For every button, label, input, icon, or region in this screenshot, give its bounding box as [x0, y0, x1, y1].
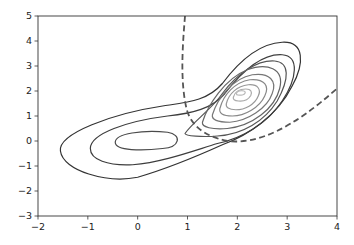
y-tick-label: 5	[26, 10, 32, 21]
x-tick-label: −2	[31, 221, 45, 232]
x-tick-label: 1	[184, 221, 190, 232]
contour-chart: −2−101234 −3−2−1012345	[0, 0, 354, 245]
x-tick-label: −1	[81, 221, 95, 232]
y-tick-label: −3	[18, 210, 32, 221]
y-tick-label: 2	[26, 85, 32, 96]
y-tick-label: 1	[26, 110, 32, 121]
y-tick-label: 0	[26, 135, 32, 146]
x-tick-label: 2	[234, 221, 240, 232]
y-tick-label: −2	[18, 185, 32, 196]
x-tick-label: 3	[284, 221, 290, 232]
x-tick-label: 4	[334, 221, 340, 232]
figure-background	[0, 0, 354, 245]
y-tick-label: 4	[26, 35, 32, 46]
x-tick-label: 0	[135, 221, 141, 232]
y-tick-label: 3	[26, 60, 32, 71]
y-tick-label: −1	[18, 160, 32, 171]
